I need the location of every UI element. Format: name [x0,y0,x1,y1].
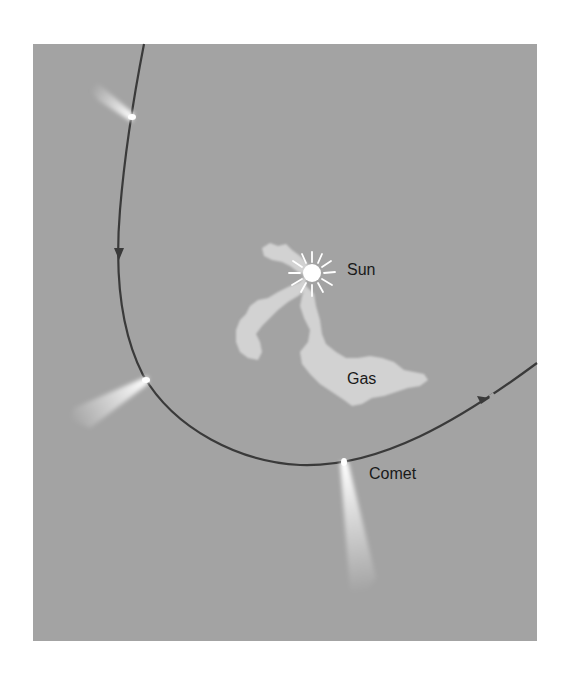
comet-label: Comet [369,465,416,483]
space-panel [33,44,537,641]
comet-orbit-diagram [0,0,570,675]
sun-label: Sun [347,261,375,279]
gas-label: Gas [347,370,376,388]
